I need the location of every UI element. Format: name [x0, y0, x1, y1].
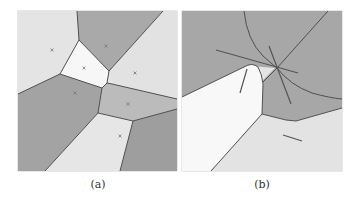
panel-a-voronoi [18, 11, 177, 171]
caption-b: (b) [242, 178, 282, 191]
caption-a: (a) [78, 178, 118, 191]
figure [0, 0, 358, 204]
panel-b-segment-voronoi [182, 11, 342, 171]
